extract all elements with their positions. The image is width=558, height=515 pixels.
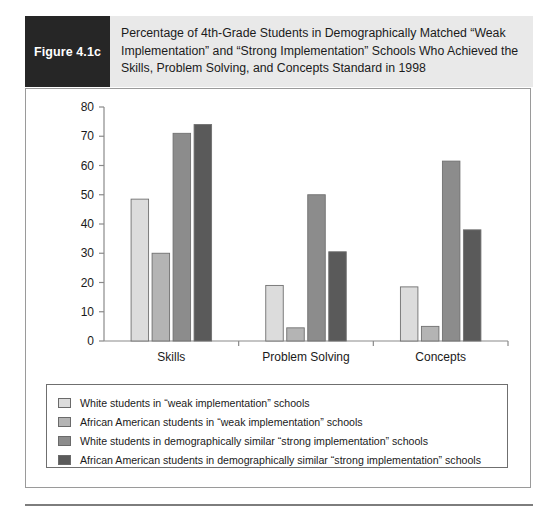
bar [442, 161, 460, 341]
legend-item-label: African American students in “weak imple… [80, 416, 363, 428]
bar [400, 287, 418, 341]
footer-divider [25, 504, 533, 506]
legend-item: White students in “weak implementation” … [58, 393, 507, 412]
legend-item-label: African American students in demographic… [80, 454, 481, 466]
figure-header: Figure 4.1c Percentage of 4th-Grade Stud… [25, 16, 533, 87]
bar [266, 285, 284, 341]
bar [131, 199, 149, 341]
bar [173, 133, 191, 341]
y-axis-tick-label: 50 [81, 188, 95, 202]
legend-item-label: White students in demographically simila… [80, 435, 428, 447]
y-axis-tick-label: 70 [81, 129, 95, 143]
legend-item: African American students in demographic… [58, 450, 507, 469]
bar-chart: 01020304050607080SkillsProblem SolvingCo… [26, 95, 532, 377]
y-axis-tick-label: 40 [81, 217, 95, 231]
y-axis-tick-label: 30 [81, 246, 95, 260]
x-axis-category-label: Skills [157, 350, 185, 364]
bar [194, 125, 212, 341]
bar [463, 230, 481, 341]
bar-chart-canvas: 01020304050607080SkillsProblem SolvingCo… [26, 95, 532, 377]
bar [152, 253, 170, 341]
figure-body: 01020304050607080SkillsProblem SolvingCo… [25, 88, 531, 488]
legend-swatch-icon [58, 398, 71, 408]
bar [287, 328, 305, 341]
legend-swatch-icon [58, 417, 71, 427]
y-axis-tick-label: 20 [81, 276, 95, 290]
bar [329, 252, 347, 341]
figure-number-tag: Figure 4.1c [25, 16, 110, 87]
legend-swatch-icon [58, 455, 71, 465]
x-axis-category-label: Problem Solving [262, 350, 349, 364]
y-axis-tick-label: 60 [81, 159, 95, 173]
y-axis-tick-label: 80 [81, 100, 95, 114]
bar [308, 195, 326, 341]
chart-legend: White students in “weak implementation” … [46, 384, 508, 468]
x-axis-category-label: Concepts [415, 350, 466, 364]
y-axis-tick-label: 10 [81, 305, 95, 319]
legend-item-label: White students in “weak implementation” … [80, 397, 310, 409]
figure-title: Percentage of 4th-Grade Students in Demo… [110, 16, 533, 87]
y-axis-tick-label: 0 [87, 334, 94, 348]
legend-item: White students in demographically simila… [58, 431, 507, 450]
legend-item: African American students in “weak imple… [58, 412, 507, 431]
legend-swatch-icon [58, 436, 71, 446]
bar [421, 326, 439, 341]
